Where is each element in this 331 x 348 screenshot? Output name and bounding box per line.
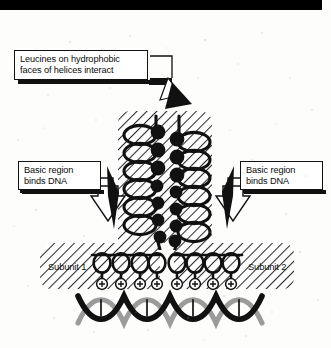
leucine-dot — [151, 125, 166, 140]
leucine-dot — [170, 186, 183, 199]
leucine-dot — [170, 132, 185, 147]
leucine-dot — [170, 203, 183, 216]
dna-double-helix — [78, 296, 262, 323]
subunit-2-label: Subunit 2 — [248, 261, 286, 272]
leucine-dot — [154, 231, 167, 244]
leucine-dot — [170, 220, 183, 233]
leucine-dot — [151, 143, 166, 158]
leucine-dot — [152, 214, 165, 227]
leucine-dot — [169, 235, 182, 248]
callout-arrow-leucines — [149, 56, 192, 109]
figure-canvas: Leucines on hydrophobic faces of helices… — [0, 0, 331, 348]
leucine-dot — [170, 150, 185, 165]
leucine-dot — [170, 168, 185, 183]
callout-basic-region-right: Basic region binds DNA — [240, 161, 323, 190]
callout-leucines: Leucines on hydrophobic faces of helices… — [14, 50, 148, 80]
leucine-dot — [151, 161, 166, 176]
callout-basic-region-left: Basic region binds DNA — [18, 161, 101, 190]
subunit-1-label: Subunit 1 — [48, 261, 86, 272]
leucine-dot — [151, 180, 164, 193]
leucine-dot — [152, 197, 165, 210]
